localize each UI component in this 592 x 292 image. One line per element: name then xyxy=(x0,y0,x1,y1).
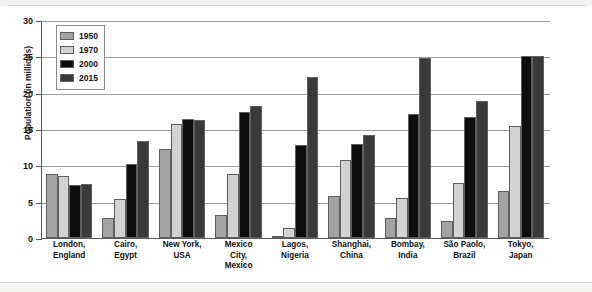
bar-group: Tokyo,Japan xyxy=(498,20,544,238)
bar-group: Bombay,India xyxy=(385,20,431,238)
x-axis-label: São Paolo,Brazil xyxy=(441,240,487,261)
x-axis-label: Bombay,India xyxy=(385,240,431,261)
x-axis-label: London,England xyxy=(46,240,92,261)
bar xyxy=(182,119,194,238)
legend-swatch-2000 xyxy=(60,60,74,68)
y-tick-label-0: 0 xyxy=(28,234,33,244)
bar xyxy=(441,221,453,238)
bar xyxy=(81,184,93,238)
legend-swatch-1970 xyxy=(60,46,74,54)
bar xyxy=(46,174,58,238)
y-tick-label-25: 25 xyxy=(23,52,33,62)
bar-group: São Paolo,Brazil xyxy=(441,20,487,238)
bar xyxy=(307,77,319,238)
legend-item-2000: 2000 xyxy=(60,57,101,71)
bar xyxy=(69,185,81,238)
bar xyxy=(295,145,307,238)
legend-item-1950: 1950 xyxy=(60,29,101,43)
bar xyxy=(250,106,262,238)
scan-edge-bottom xyxy=(0,282,592,292)
bar xyxy=(171,124,183,238)
bar xyxy=(283,228,295,238)
y-tick-5 xyxy=(36,203,42,204)
y-tick-label-15: 15 xyxy=(23,125,33,135)
bar-group: Lagos,Nigeria xyxy=(272,20,318,238)
legend-swatch-2015 xyxy=(60,74,74,82)
bar xyxy=(419,58,431,238)
bar xyxy=(521,56,533,238)
bar xyxy=(498,191,510,238)
legend-label-1950: 1950 xyxy=(79,31,98,41)
bar xyxy=(328,196,340,238)
bar xyxy=(476,101,488,238)
y-tick-label-30: 30 xyxy=(23,16,33,26)
bar xyxy=(363,135,375,238)
bar xyxy=(532,56,544,238)
bar xyxy=(215,215,227,238)
legend-swatch-1950 xyxy=(60,32,74,40)
bar xyxy=(227,174,239,238)
legend-label-2000: 2000 xyxy=(79,59,98,69)
chart-legend: 1950 1970 2000 2015 xyxy=(56,25,105,90)
x-axis-label: Cairo,Egypt xyxy=(102,240,148,261)
bar xyxy=(385,218,397,238)
bar-group: Shanghai,China xyxy=(328,20,374,238)
bar xyxy=(159,149,171,238)
bar-group: MexicoCity,Mexico xyxy=(215,20,261,238)
y-tick-20 xyxy=(36,94,42,95)
x-axis-label: MexicoCity,Mexico xyxy=(215,240,261,272)
legend-label-1970: 1970 xyxy=(79,45,98,55)
scan-rule-top xyxy=(8,5,586,6)
bar xyxy=(102,218,114,238)
x-axis-label: New York,USA xyxy=(159,240,205,261)
x-axis-label: Tokyo,Japan xyxy=(498,240,544,261)
bar-group: Cairo,Egypt xyxy=(102,20,148,238)
legend-item-1970: 1970 xyxy=(60,43,101,57)
bar xyxy=(272,236,284,238)
x-axis-label: Shanghai,China xyxy=(328,240,374,261)
bar xyxy=(58,176,70,238)
chart-figure: Population (in millions) 051015202530Lon… xyxy=(0,0,592,292)
bar xyxy=(464,117,476,238)
legend-item-2015: 2015 xyxy=(60,71,101,85)
scan-rule-bottom xyxy=(0,282,592,283)
bar xyxy=(114,199,126,238)
y-tick-10 xyxy=(36,166,42,167)
x-axis-label: Lagos,Nigeria xyxy=(272,240,318,261)
bar xyxy=(239,112,251,238)
bar xyxy=(137,141,149,238)
y-tick-label-10: 10 xyxy=(23,161,33,171)
bar xyxy=(509,126,521,238)
bar xyxy=(340,160,352,238)
bar xyxy=(396,198,408,238)
y-tick-label-5: 5 xyxy=(28,198,33,208)
bar xyxy=(408,114,420,238)
bar xyxy=(453,183,465,238)
y-tick-15 xyxy=(36,130,42,131)
legend-label-2015: 2015 xyxy=(79,73,98,83)
y-tick-0 xyxy=(36,239,42,240)
bar xyxy=(194,120,206,238)
y-tick-label-20: 20 xyxy=(23,89,33,99)
plot-area: 051015202530London,EnglandCairo,EgyptNew… xyxy=(41,21,549,239)
bar-group: New York,USA xyxy=(159,20,205,238)
y-tick-25 xyxy=(36,57,42,58)
bar xyxy=(351,144,363,238)
y-tick-30 xyxy=(36,21,42,22)
bar xyxy=(126,164,138,238)
